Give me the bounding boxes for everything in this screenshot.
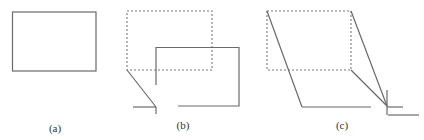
panel-c-left-diagonal bbox=[267, 11, 302, 107]
panel-b-solid-outline bbox=[156, 48, 239, 107]
panel-c: (c) bbox=[267, 11, 419, 132]
panel-c-bottom-right-diagonal bbox=[351, 70, 387, 106]
panel-b-label: (b) bbox=[177, 119, 190, 132]
panel-a-rectangle bbox=[13, 12, 97, 71]
panel-c-label: (c) bbox=[336, 119, 349, 132]
panel-a: (a) bbox=[13, 12, 97, 135]
panel-c-top-right-diagonal bbox=[351, 11, 387, 106]
panel-a-label: (a) bbox=[49, 122, 62, 135]
figure-canvas: (a) (b) (c) bbox=[0, 0, 424, 140]
panel-b-diagonal bbox=[127, 70, 156, 107]
panel-b: (b) bbox=[127, 11, 239, 132]
panel-b-dashed-rectangle bbox=[127, 11, 212, 70]
panel-c-dashed-rectangle bbox=[267, 11, 351, 70]
